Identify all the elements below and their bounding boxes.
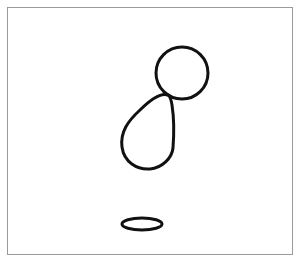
head-circle [156,47,208,99]
body-teardrop [122,94,174,169]
ground-ellipse [122,218,162,230]
drawing-canvas [0,0,296,263]
